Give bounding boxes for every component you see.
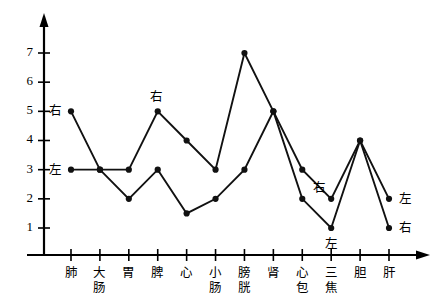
point-annotation-左: 左: [325, 236, 338, 251]
data-point: [241, 167, 247, 173]
point-annotation-右: 右: [150, 89, 163, 104]
x-tick-label: 肺: [65, 266, 78, 280]
chart-container: 1234567 右左右右左左右 肺大肠胃脾心小肠膀胱肾心包三焦胆肝: [0, 0, 438, 298]
data-point: [299, 196, 305, 202]
data-point: [184, 210, 190, 216]
x-tick-label: 脾: [151, 265, 164, 280]
data-point: [328, 196, 334, 202]
point-annotation-左: 左: [49, 162, 62, 177]
data-point: [386, 196, 392, 202]
data-point: [299, 167, 305, 173]
point-annotation-右: 右: [399, 220, 412, 235]
data-point: [386, 225, 392, 231]
point-annotation-右: 右: [49, 103, 62, 118]
series-line-右: [71, 53, 389, 228]
y-axis-ticks: 1234567: [27, 44, 51, 234]
data-point: [68, 167, 74, 173]
data-point: [126, 196, 132, 202]
y-axis-arrow-icon: [40, 13, 49, 27]
x-tick-label: 小: [209, 266, 222, 280]
x-tick-label: 心: [180, 266, 193, 280]
data-point: [155, 108, 161, 114]
chart-axes: [27, 13, 430, 260]
point-annotation-右: 右: [313, 180, 326, 195]
x-tick-label: 肠: [93, 281, 106, 295]
y-tick-label: 5: [27, 102, 34, 117]
x-tick-label: 胱: [238, 280, 251, 295]
data-series-group: [68, 50, 392, 231]
data-point: [126, 167, 132, 173]
x-tick-label: 焦: [325, 281, 338, 295]
data-point: [357, 137, 363, 143]
data-point: [270, 108, 276, 114]
x-tick-label: 膀: [238, 265, 251, 280]
data-point: [328, 225, 334, 231]
data-point: [212, 167, 218, 173]
data-point: [212, 196, 218, 202]
data-point: [97, 167, 103, 173]
y-tick-label: 3: [27, 161, 34, 176]
x-axis-labels: 肺大肠胃脾心小肠膀胱肾心包三焦胆肝: [65, 265, 396, 295]
x-tick-label: 三: [325, 266, 338, 280]
y-tick-label: 2: [27, 190, 34, 205]
data-point: [155, 167, 161, 173]
x-tick-label: 心: [296, 266, 309, 280]
y-tick-label: 1: [27, 219, 34, 234]
x-axis-arrow-icon: [416, 251, 430, 260]
x-tick-label: 胆: [354, 266, 367, 280]
x-tick-label: 肝: [383, 266, 396, 280]
data-point: [184, 137, 190, 143]
x-tick-label: 肠: [209, 281, 222, 295]
data-point: [241, 50, 247, 56]
y-tick-label: 7: [27, 44, 34, 59]
point-annotation-左: 左: [399, 191, 412, 206]
x-tick-label: 肾: [267, 266, 280, 280]
y-tick-label: 4: [27, 131, 34, 146]
y-tick-label: 6: [27, 73, 34, 88]
x-tick-label: 胃: [122, 266, 135, 280]
line-chart: 1234567 右左右右左左右 肺大肠胃脾心小肠膀胱肾心包三焦胆肝: [0, 0, 438, 298]
x-tick-label: 包: [296, 281, 309, 295]
x-tick-label: 大: [93, 266, 106, 280]
data-point: [68, 108, 74, 114]
